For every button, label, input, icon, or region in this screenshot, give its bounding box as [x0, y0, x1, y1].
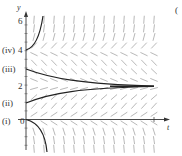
slope-segment: [101, 112, 107, 116]
slope-segment: [84, 16, 85, 23]
slope-segment: [142, 60, 147, 65]
slope-segment: [102, 43, 107, 48]
slope-segment: [84, 145, 85, 152]
slope-segment: [63, 128, 65, 135]
y-axis-label: y: [17, 4, 21, 12]
slope-segment: [32, 103, 37, 108]
slope-segment: [53, 128, 55, 135]
slope-segment: [82, 60, 87, 65]
slope-segment: [81, 95, 86, 100]
slope-segment: [61, 121, 67, 125]
slope-segment: [112, 103, 117, 108]
slope-segment: [72, 60, 77, 65]
slope-segment: [51, 112, 57, 116]
slope-segment: [64, 25, 65, 32]
slope-segment: [131, 121, 137, 125]
slope-segment: [82, 103, 87, 108]
slope-segment: [154, 25, 155, 32]
slope-segment: [151, 95, 156, 100]
slope-segment: [91, 95, 96, 100]
slope-segment: [34, 145, 35, 152]
slope-segment: [74, 16, 75, 23]
slope-segment: [121, 112, 127, 116]
slope-segment: [121, 53, 128, 56]
slope-segment: [121, 95, 126, 100]
slope-segment: [81, 121, 87, 125]
slope-segment: [91, 121, 97, 125]
slope-segment: [61, 53, 68, 56]
slope-segment: [31, 53, 38, 56]
slope-segment: [92, 43, 97, 48]
slope-segment: [104, 145, 105, 152]
slope-segment: [152, 43, 157, 48]
slope-segment: [31, 79, 38, 82]
slope-segment: [33, 137, 34, 144]
t-axis-label: t: [167, 124, 169, 132]
y-tick-2: 2: [18, 82, 23, 91]
curve-label-iii: (iii): [2, 65, 16, 74]
slope-segment: [93, 33, 95, 40]
slope-segment: [83, 128, 85, 135]
slope-segment: [94, 145, 95, 152]
slope-segment: [71, 69, 76, 74]
slope-segment: [132, 103, 137, 108]
slope-segment: [61, 88, 68, 90]
slope-segment: [91, 53, 98, 56]
slope-segment: [101, 53, 108, 56]
slope-segment: [81, 112, 87, 116]
panel-marker: (: [175, 6, 178, 15]
slope-segment: [41, 112, 47, 116]
slope-segment: [31, 88, 38, 90]
slope-segment: [104, 16, 105, 23]
slope-segment: [94, 25, 95, 32]
slope-segment: [41, 53, 48, 56]
slope-segment: [81, 69, 86, 74]
slope-segment: [154, 145, 155, 152]
curve-label-ii: (ii): [2, 99, 13, 108]
slope-segment: [92, 60, 97, 65]
slope-segment: [101, 79, 108, 82]
slope-segment: [142, 103, 147, 108]
slope-segment: [62, 103, 67, 108]
slope-segment: [111, 69, 116, 74]
slope-segment: [43, 33, 45, 40]
slope-field-diagram: [0, 0, 182, 156]
slope-segment: [141, 53, 148, 56]
slope-segment: [123, 128, 125, 135]
curve-label-i: (i): [2, 117, 11, 126]
slope-segment: [153, 128, 155, 135]
slope-segment: [42, 60, 47, 65]
slope-segment: [113, 128, 115, 135]
slope-segment: [121, 79, 128, 82]
slope-segment: [64, 145, 65, 152]
slope-segment: [61, 112, 67, 116]
slope-segment: [123, 137, 124, 144]
slope-segment: [41, 69, 46, 74]
slope-segment: [134, 25, 135, 32]
slope-segment: [111, 121, 117, 125]
slope-segment: [153, 33, 155, 40]
t-axis-arrow-icon: [164, 118, 170, 122]
slope-segment: [102, 60, 107, 65]
slope-segment: [51, 53, 58, 56]
slope-segment: [53, 137, 54, 144]
slope-segment: [111, 112, 117, 116]
slope-segment: [131, 53, 138, 56]
slope-segment: [93, 137, 94, 144]
slope-segment: [132, 60, 137, 65]
slope-segment: [124, 25, 125, 32]
slope-segment: [101, 69, 106, 74]
slope-segment: [73, 137, 74, 144]
slope-segment: [83, 137, 84, 144]
slope-segment: [113, 137, 114, 144]
slope-segment: [82, 43, 87, 48]
slope-segment: [41, 79, 48, 82]
slope-segment: [114, 16, 115, 23]
slope-segment: [122, 103, 127, 108]
slope-segment: [151, 88, 158, 90]
slope-segment: [51, 88, 58, 90]
slope-segment: [51, 69, 56, 74]
slope-segment: [122, 60, 127, 65]
slope-segment: [54, 16, 55, 23]
slope-segment: [73, 128, 75, 135]
